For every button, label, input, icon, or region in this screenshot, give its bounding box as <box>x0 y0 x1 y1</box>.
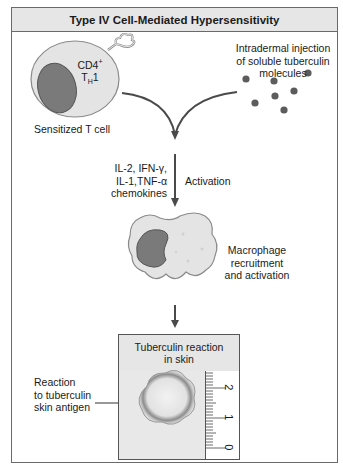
ruler-label-2: 2 <box>223 384 236 390</box>
induration-wheal-icon <box>139 370 195 424</box>
ruler-label-0: 0 <box>223 444 236 450</box>
ruler-label-1: 1 <box>223 414 236 420</box>
skin-artwork <box>0 0 343 471</box>
